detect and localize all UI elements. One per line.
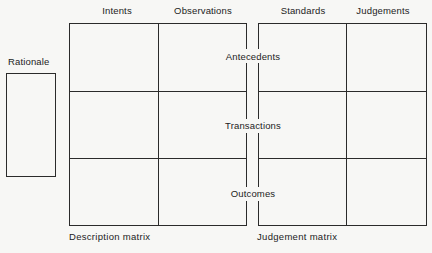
- caption-judgement-matrix: Judgement matrix: [257, 231, 337, 242]
- row-label-antecedents: Antecedents: [223, 51, 283, 62]
- diagram-line-art: [0, 0, 432, 253]
- row-label-transactions: Transactions: [222, 120, 284, 131]
- row-label-outcomes: Outcomes: [228, 188, 279, 199]
- countenance-model-diagram: Rationale Intents Observations Standards…: [0, 0, 432, 253]
- rationale-label: Rationale: [8, 56, 50, 67]
- column-header-judgements: Judgements: [356, 5, 409, 16]
- column-header-observations: Observations: [174, 5, 232, 16]
- column-header-intents: Intents: [102, 5, 132, 16]
- column-header-standards: Standards: [281, 5, 326, 16]
- rationale-box-outline: [7, 74, 56, 177]
- caption-description-matrix: Description matrix: [69, 231, 150, 242]
